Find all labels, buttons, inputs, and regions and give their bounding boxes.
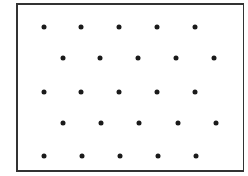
lattice-dot — [193, 25, 198, 30]
lattice-dot — [42, 25, 47, 30]
lattice-dot — [137, 121, 142, 126]
lattice-dot — [118, 154, 123, 159]
lattice-dot — [156, 154, 161, 159]
lattice-dot — [214, 121, 219, 126]
lattice-dot — [155, 90, 160, 95]
lattice-dot — [155, 25, 160, 30]
lattice-dot — [61, 121, 66, 126]
lattice-dot — [61, 56, 66, 61]
lattice-dot — [117, 25, 122, 30]
lattice-dot — [80, 154, 85, 159]
lattice-dot — [79, 25, 84, 30]
lattice-dot — [42, 90, 47, 95]
lattice-dot — [99, 121, 104, 126]
lattice-dot — [212, 56, 217, 61]
lattice-dot — [42, 154, 47, 159]
lattice-dot — [174, 56, 179, 61]
lattice-dot — [117, 90, 122, 95]
lattice-dot — [193, 90, 198, 95]
lattice-dot — [176, 121, 181, 126]
lattice-frame — [16, 3, 244, 172]
lattice-dot — [194, 154, 199, 159]
lattice-dot — [79, 90, 84, 95]
lattice-dot — [98, 56, 103, 61]
lattice-dot — [136, 56, 141, 61]
